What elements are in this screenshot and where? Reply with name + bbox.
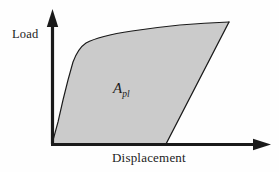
plastic-area-symbol: A (113, 80, 122, 96)
load-displacement-figure: Load Displacement Apl (0, 0, 279, 172)
plastic-area-annotation: Apl (113, 81, 130, 100)
x-axis-arrowhead-icon (253, 139, 271, 151)
plastic-area-subscript: pl (122, 89, 129, 99)
figure-canvas (0, 0, 279, 172)
y-axis-arrowhead-icon (47, 9, 58, 27)
plastic-area-fill (52, 22, 229, 144)
y-axis-label: Load (12, 28, 38, 41)
x-axis-label: Displacement (112, 151, 186, 164)
